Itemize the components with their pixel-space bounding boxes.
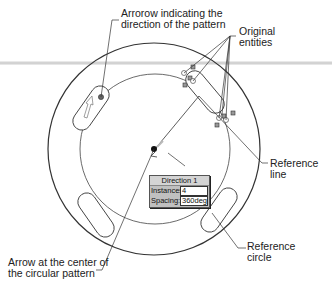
- dialog-title: Direction 1: [150, 176, 209, 186]
- slot-instances: [69, 67, 240, 241]
- label-line: entities: [239, 37, 275, 48]
- label-center-arrow: Arrow at the center of the circular patt…: [8, 257, 94, 279]
- spacing-row: Spacing: 360deg: [150, 196, 209, 206]
- label-line: the circular pattern: [8, 268, 94, 279]
- preview-arrow: [157, 141, 163, 147]
- slot-top-right: [182, 67, 228, 117]
- leader-lines: [96, 20, 268, 270]
- spacing-label: Spacing:: [151, 196, 179, 206]
- label-line: circle: [247, 252, 295, 263]
- leader-center-arrow: [96, 149, 154, 270]
- spacing-input[interactable]: 360deg: [180, 196, 208, 206]
- slot-top-left: [69, 82, 112, 133]
- label-line: direction of the pattern: [121, 19, 225, 30]
- label-original-entities: Original entities: [239, 26, 275, 48]
- direction-dialog: Direction 1 Instances: 4 Spacing: 360deg: [149, 175, 210, 208]
- instances-row: Instances: 4: [150, 186, 209, 196]
- label-reference-line: Reference line: [270, 158, 318, 180]
- leader-dialog: [168, 153, 185, 166]
- leader-direction-arrow: [101, 20, 119, 97]
- instances-label: Instances:: [151, 186, 179, 196]
- instances-input[interactable]: 4: [180, 186, 208, 196]
- label-line: line: [270, 169, 318, 180]
- label-reference-circle: Reference circle: [247, 241, 295, 263]
- label-direction-arrow: Arrorow indicating the direction of the …: [121, 8, 225, 30]
- slot-bottom-left: [74, 189, 117, 240]
